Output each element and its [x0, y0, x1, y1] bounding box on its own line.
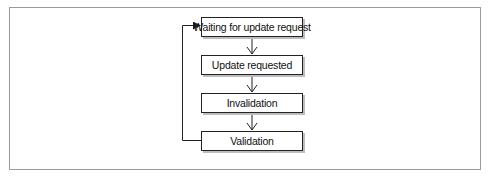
state-label: Waiting for update request [193, 21, 311, 33]
arrow-invalidation-to-validation [247, 113, 257, 130]
state-label: Update requested [212, 59, 292, 71]
arrow-waiting-to-requested [247, 37, 257, 54]
state-label: Invalidation [227, 97, 278, 109]
arrow-validation-to-waiting [183, 26, 202, 141]
state-label: Validation [230, 135, 273, 147]
state-validation: Validation [201, 131, 303, 151]
state-invalidation: Invalidation [201, 93, 303, 113]
state-update-requested: Update requested [201, 55, 303, 75]
state-waiting-for-update-request: Waiting for update request [201, 17, 303, 37]
arrow-requested-to-invalidation [247, 75, 257, 92]
